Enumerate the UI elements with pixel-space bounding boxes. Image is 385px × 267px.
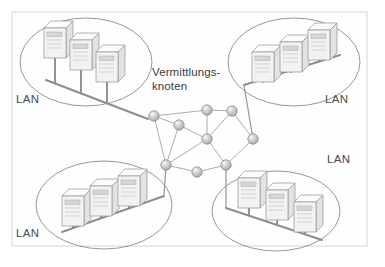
lan-label-0: LAN — [16, 93, 40, 105]
diagram-canvas: Vermittlungs- knoten LANLANLANLAN — [0, 0, 385, 267]
vermittlungsknoten-label-line1: Vermittlungs- — [152, 66, 220, 78]
server-tower — [118, 169, 147, 206]
vermittlungsknoten-label-line2: knoten — [152, 80, 187, 92]
server-tower — [90, 179, 119, 216]
switching-node — [248, 134, 258, 144]
switching-node — [149, 111, 159, 121]
switching-node — [192, 167, 202, 177]
switching-node — [202, 105, 212, 115]
server-tower — [266, 183, 295, 220]
switching-node — [227, 106, 237, 116]
switching-node — [174, 120, 184, 130]
server-tower — [44, 21, 73, 58]
lan-label-1: LAN — [325, 93, 349, 105]
lan-label-2: LAN — [16, 227, 40, 239]
switching-node — [161, 160, 171, 170]
network-diagram-figure: Vermittlungs- knoten LANLANLANLAN — [0, 0, 385, 267]
server-tower — [96, 45, 125, 82]
server-tower — [62, 189, 91, 226]
server-tower — [252, 45, 281, 82]
server-tower — [238, 171, 267, 208]
server-tower — [308, 23, 337, 60]
lan-label-3: LAN — [327, 153, 351, 165]
server-tower — [280, 35, 309, 72]
switching-node — [202, 134, 212, 144]
server-tower — [70, 33, 99, 70]
server-tower — [294, 195, 323, 232]
switching-node — [221, 160, 231, 170]
